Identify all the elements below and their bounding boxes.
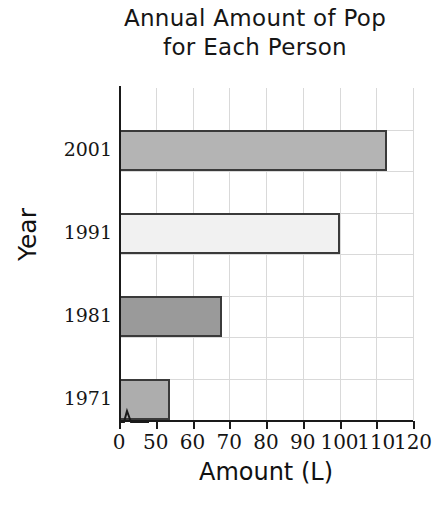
chart-title: Annual Amount of Pop for Each Person (90, 4, 420, 62)
gridline-horizontal (119, 254, 413, 255)
y-axis-tick-label-1971: 1971 (42, 389, 112, 408)
bar-chart: Annual Amount of Pop for Each Person 200… (0, 0, 439, 510)
x-axis-tick-mark (156, 421, 158, 429)
y-axis-title: Year (15, 180, 40, 290)
x-axis-tick-label-90: 90 (290, 431, 315, 453)
x-axis-tick-label-110: 110 (357, 431, 395, 453)
x-axis-tick-label-100: 100 (320, 431, 358, 453)
y-axis-tick-label-2001: 2001 (42, 140, 112, 159)
bar-1981 (119, 296, 222, 338)
bar-2001 (119, 130, 387, 172)
y-axis-tick-label-1991: 1991 (42, 223, 112, 242)
x-axis-tick-mark (340, 421, 342, 429)
x-axis-tick-mark (303, 421, 305, 429)
gridline-horizontal (119, 171, 413, 172)
x-axis-tick-label-60: 60 (180, 431, 205, 453)
x-axis-tick-label-120: 120 (394, 431, 432, 453)
y-axis-tick-label-1981: 1981 (42, 306, 112, 325)
x-axis-tick-label-70: 70 (217, 431, 242, 453)
x-axis-tick-mark (119, 421, 121, 429)
gridline-vertical (413, 88, 414, 420)
chart-title-line-1: Annual Amount of Pop (90, 4, 420, 33)
bar-1991 (119, 213, 340, 255)
plot-area (119, 88, 413, 420)
x-axis-tick-label-0: 0 (113, 431, 126, 453)
chart-title-line-2: for Each Person (90, 33, 420, 62)
x-axis-title: Amount (L) (119, 459, 413, 485)
x-axis-tick-label-80: 80 (253, 431, 278, 453)
x-axis-tick-label-50: 50 (143, 431, 168, 453)
x-axis-tick-mark (266, 421, 268, 429)
y-axis-tick-labels: 2001199119811971 (34, 88, 112, 420)
x-axis-tick-mark (193, 421, 195, 429)
gridline-horizontal (119, 337, 413, 338)
x-axis-tick-mark (229, 421, 231, 429)
x-axis-tick-mark (376, 421, 378, 429)
axis-break-icon (119, 406, 149, 424)
y-axis-line (119, 86, 121, 422)
x-axis-tick-mark (413, 421, 415, 429)
